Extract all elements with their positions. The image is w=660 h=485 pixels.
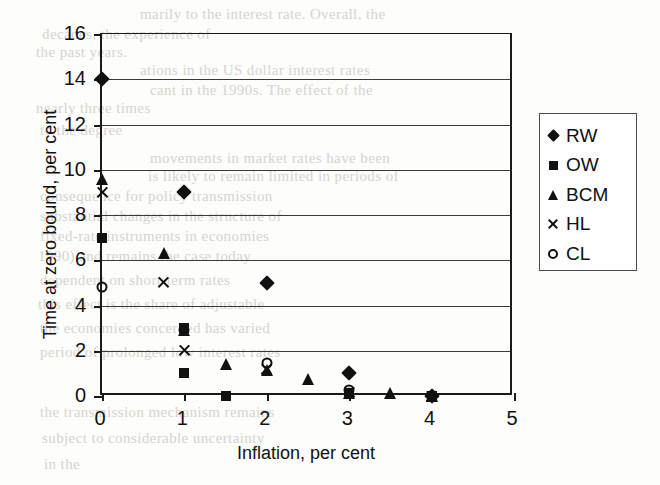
data-point-rw (94, 71, 110, 87)
cross-icon (547, 218, 559, 230)
data-point-cl (344, 385, 355, 396)
x-axis-title: Inflation, per cent (100, 443, 512, 464)
data-point-bcm (220, 358, 232, 370)
x-tick (267, 393, 269, 401)
data-point-cl (426, 391, 437, 402)
gridline (102, 351, 510, 352)
gridline (102, 170, 510, 171)
y-tick (94, 34, 102, 36)
data-point-cl (261, 358, 272, 369)
legend-marker-hl (540, 214, 566, 234)
filled-square-icon (549, 161, 558, 170)
data-point-hl (178, 344, 191, 357)
data-point-rw (341, 366, 357, 382)
gridline (102, 306, 510, 307)
legend-label: CL (566, 243, 590, 265)
filled-diamond-icon (547, 129, 560, 142)
gridline (102, 260, 510, 261)
gridline (102, 215, 510, 216)
y-tick (94, 396, 102, 398)
y-tick (94, 215, 102, 217)
gridline (102, 125, 510, 126)
legend-item-rw[interactable]: RW (540, 120, 636, 151)
x-tick-label: 5 (506, 407, 517, 430)
x-tick-label: 3 (342, 407, 353, 430)
data-point-cl (97, 282, 108, 293)
x-tick (102, 393, 104, 401)
figure-screenshot: marily to the interest rate. Overall, th… (0, 0, 660, 485)
legend-item-ow[interactable]: OW (540, 150, 636, 181)
x-tick-label: 4 (424, 407, 435, 430)
legend-item-cl[interactable]: CL (540, 238, 636, 269)
filled-triangle-icon (548, 190, 558, 200)
y-axis-title: Time at zero bound, per cent (40, 55, 61, 395)
gridline (102, 79, 510, 80)
legend-marker-ow (540, 155, 566, 175)
legend-label: HL (566, 213, 590, 235)
legend-label: BCM (566, 184, 608, 206)
data-point-cl (179, 325, 190, 336)
legend-item-bcm[interactable]: BCM (540, 179, 636, 210)
plot-area (100, 33, 512, 395)
y-tick (94, 306, 102, 308)
legend-marker-cl (540, 244, 566, 264)
x-tick-label: 1 (177, 407, 188, 430)
data-point-ow (179, 368, 189, 378)
x-tick-label: 0 (94, 407, 105, 430)
x-tick (514, 393, 516, 401)
data-point-bcm (384, 387, 396, 399)
y-tick (94, 260, 102, 262)
legend: RWOWBCMHLCL (539, 113, 637, 271)
data-point-bcm (302, 373, 314, 385)
data-point-hl (96, 186, 109, 199)
data-point-ow (221, 391, 231, 401)
x-tick-label: 2 (259, 407, 270, 430)
open-circle-icon (548, 249, 558, 259)
data-point-rw (259, 275, 275, 291)
y-tick-label: 16 (0, 22, 86, 45)
data-point-bcm (96, 173, 108, 185)
y-tick (94, 170, 102, 172)
y-tick (94, 351, 102, 353)
legend-label: RW (566, 125, 597, 147)
legend-marker-bcm (540, 185, 566, 205)
x-tick (184, 393, 186, 401)
legend-label: OW (566, 154, 599, 176)
data-point-bcm (158, 247, 170, 259)
legend-marker-rw (540, 126, 566, 146)
data-point-hl (157, 276, 170, 289)
y-tick (94, 125, 102, 127)
data-point-ow (97, 233, 107, 243)
legend-item-hl[interactable]: HL (540, 209, 636, 240)
data-point-rw (177, 185, 193, 201)
scatter-chart: 0246810121416 012345 Inflation, per cent… (0, 0, 660, 485)
